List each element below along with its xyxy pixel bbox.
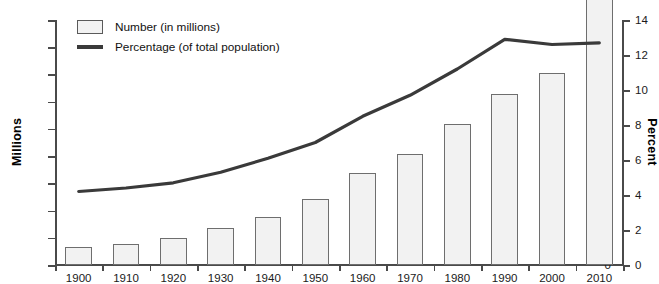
legend-line-swatch-icon	[77, 45, 103, 48]
legend-label-percentage: Percentage (of total population)	[115, 40, 280, 54]
legend: Number (in millions) Percentage (of tota…	[77, 17, 280, 57]
legend-box-swatch-icon	[77, 20, 103, 34]
percentage-line	[79, 39, 600, 191]
legend-item-number: Number (in millions)	[77, 17, 280, 37]
legend-item-percentage: Percentage (of total population)	[77, 37, 280, 57]
legend-label-number: Number (in millions)	[115, 20, 220, 34]
chart-container: Millions Percent 051015202530355055 0246…	[0, 0, 659, 284]
